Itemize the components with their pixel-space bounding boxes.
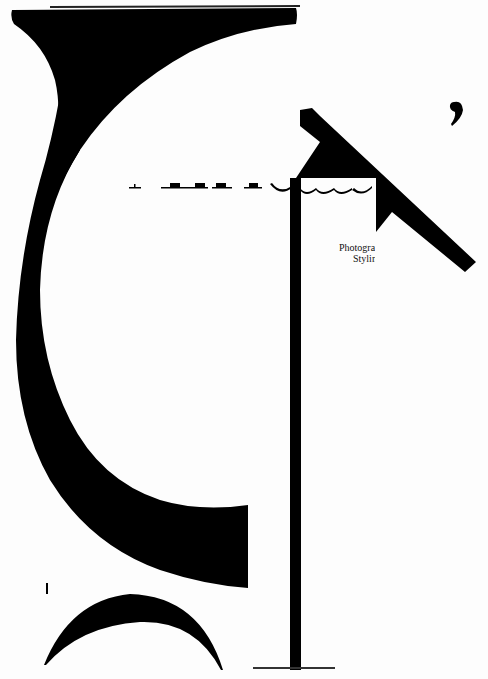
editorial-page: Photogra Stylin — [0, 0, 488, 679]
photographer-credit: Photogra — [339, 242, 375, 253]
small-mark — [46, 583, 48, 594]
credits-block: Photogra Stylin — [339, 242, 375, 264]
typographic-artwork — [0, 0, 488, 679]
top-rule — [50, 5, 300, 8]
vertical-stem — [290, 178, 301, 670]
diagonal-arm — [296, 108, 476, 272]
stylist-credit: Stylin — [339, 253, 375, 264]
headline-fragments — [129, 183, 372, 194]
bottom-arc — [44, 594, 223, 670]
comma-glyph — [450, 102, 463, 126]
large-letter-g-bowl — [16, 95, 248, 588]
bottom-rule — [253, 667, 335, 669]
